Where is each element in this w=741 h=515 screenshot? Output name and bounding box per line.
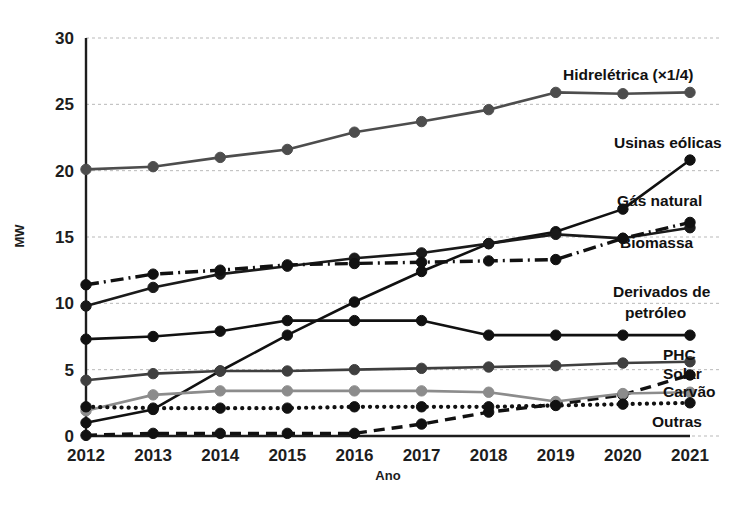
x-tick-label: 2020 [604,446,642,465]
data-point [618,388,628,398]
y-tick-label: 10 [55,294,74,313]
series-label-hidreletrica: Hidrelétrica (×1/4) [563,66,694,83]
data-point [349,386,359,396]
y-tick-label: 15 [55,228,74,247]
line-chart: 051015202530 201220132014201520162017201… [0,0,741,515]
data-point [215,403,225,413]
series-label-solar: Solar [663,365,702,382]
data-point [483,402,493,412]
data-point [483,387,493,397]
data-point [215,152,225,162]
x-tick-label: 2015 [268,446,306,465]
series-line [86,321,690,340]
series-line [86,160,690,423]
data-point [551,87,561,97]
series-label-phc: PHC [663,346,696,363]
data-point [148,390,158,400]
data-point [81,402,91,412]
x-tick-label: 2018 [470,446,508,465]
chart-container: 051015202530 201220132014201520162017201… [0,0,741,515]
series-label-derivados_line2: petróleo [625,304,686,321]
y-tick-label: 0 [65,427,74,446]
y-tick-label: 30 [55,29,74,48]
data-point [551,254,561,264]
data-point [685,155,695,165]
data-point [148,403,158,413]
series-label-derivados_line1: Derivados de [613,283,711,300]
data-point [483,238,493,248]
data-point [483,256,493,266]
y-tick-label: 25 [55,95,74,114]
data-point [282,260,292,270]
data-point [215,386,225,396]
x-axis-title: Ano [375,468,400,483]
data-point [282,386,292,396]
data-point [349,258,359,268]
data-point [618,89,628,99]
data-point [483,362,493,372]
x-tick-label: 2012 [67,446,105,465]
data-point [282,315,292,325]
data-point [618,358,628,368]
data-point [81,430,91,440]
data-point [282,403,292,413]
x-tick-labels: 2012201320142015201620172018201920202021 [67,446,709,465]
series-line [86,228,690,306]
data-point [349,364,359,374]
data-point [148,269,158,279]
data-point [551,400,561,410]
data-point [349,297,359,307]
x-tick-label: 2014 [201,446,239,465]
data-point [148,331,158,341]
data-point [416,386,426,396]
data-point [81,301,91,311]
data-point [282,144,292,154]
data-point [148,368,158,378]
y-tick-label: 5 [65,361,74,380]
data-point [685,330,695,340]
data-point [551,229,561,239]
data-point [685,217,695,227]
data-point [81,334,91,344]
data-point [349,402,359,412]
series-layer [86,92,690,435]
data-point [148,282,158,292]
data-point [349,428,359,438]
x-tick-label: 2017 [403,446,441,465]
x-tick-label: 2021 [671,446,709,465]
data-point [349,127,359,137]
series-line [86,222,690,284]
data-point [551,360,561,370]
data-point [685,87,695,97]
series-label-gas_natural: Gás natural [617,192,702,209]
data-point [618,399,628,409]
data-point [483,330,493,340]
data-point [148,161,158,171]
series-line [86,375,690,435]
data-point [282,330,292,340]
data-point [81,280,91,290]
data-point [416,419,426,429]
data-point [215,428,225,438]
data-point [282,428,292,438]
series-label-usinas_eolicas: Usinas eólicas [614,134,722,151]
data-point [282,366,292,376]
data-point [551,330,561,340]
series-label-biomassa: Biomassa [620,234,694,251]
data-point [81,418,91,428]
series-label-outras: Outras [652,413,702,430]
data-point [81,164,91,174]
data-point [416,116,426,126]
data-point [215,326,225,336]
data-point [416,363,426,373]
x-tick-label: 2019 [537,446,575,465]
x-tick-label: 2013 [134,446,172,465]
data-point [349,315,359,325]
x-tick-label: 2016 [336,446,374,465]
data-point [416,257,426,267]
data-point [148,428,158,438]
data-point [416,402,426,412]
data-point [483,104,493,114]
y-tick-labels: 051015202530 [55,29,74,446]
data-point [215,265,225,275]
